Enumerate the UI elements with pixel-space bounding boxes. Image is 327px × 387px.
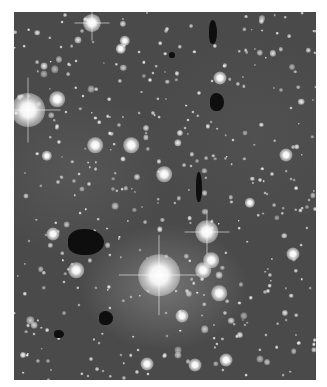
faint-star bbox=[252, 182, 254, 184]
faint-star bbox=[201, 326, 209, 334]
faint-star bbox=[80, 372, 83, 375]
faint-star bbox=[108, 253, 111, 256]
faint-star bbox=[289, 293, 294, 298]
faint-star bbox=[270, 172, 274, 176]
faint-star bbox=[134, 370, 138, 374]
faint-star bbox=[312, 343, 315, 346]
faint-star bbox=[121, 157, 126, 162]
faint-star bbox=[295, 186, 299, 190]
bright-star bbox=[245, 198, 255, 208]
faint-star bbox=[120, 256, 122, 258]
faint-star bbox=[243, 28, 246, 31]
faint-star bbox=[14, 30, 17, 34]
faint-star bbox=[101, 333, 103, 335]
faint-star bbox=[28, 240, 31, 243]
faint-star bbox=[294, 269, 298, 273]
faint-star bbox=[301, 207, 304, 210]
faint-star bbox=[301, 12, 304, 14]
faint-star bbox=[49, 112, 55, 118]
faint-star bbox=[189, 222, 191, 224]
faint-star bbox=[225, 300, 229, 304]
faint-star bbox=[107, 98, 111, 102]
faint-star bbox=[35, 218, 37, 220]
faint-star bbox=[281, 310, 287, 316]
faint-star bbox=[229, 195, 233, 199]
faint-star bbox=[60, 252, 64, 256]
bright-star bbox=[49, 91, 65, 107]
faint-star bbox=[230, 163, 233, 166]
bright-star bbox=[42, 151, 52, 161]
faint-star bbox=[183, 126, 186, 129]
faint-star bbox=[106, 114, 110, 118]
faint-star bbox=[216, 127, 219, 130]
diffraction-spike bbox=[92, 12, 93, 41]
faint-star bbox=[115, 63, 117, 65]
faint-star bbox=[92, 40, 95, 43]
faint-star bbox=[197, 91, 201, 95]
faint-star bbox=[122, 115, 124, 117]
faint-star bbox=[157, 198, 160, 201]
faint-star bbox=[289, 106, 292, 109]
faint-star bbox=[23, 193, 28, 198]
faint-star bbox=[120, 64, 126, 70]
faint-star bbox=[245, 51, 249, 55]
faint-star bbox=[190, 277, 194, 281]
faint-star bbox=[68, 63, 71, 66]
faint-star bbox=[165, 79, 169, 83]
faint-star bbox=[291, 348, 297, 354]
faint-star bbox=[311, 135, 314, 138]
faint-star bbox=[61, 156, 63, 158]
faint-star bbox=[78, 107, 81, 110]
bright-star bbox=[47, 228, 60, 241]
faint-star bbox=[196, 114, 200, 118]
faint-star bbox=[274, 215, 279, 220]
dark-globule bbox=[54, 330, 64, 338]
faint-star bbox=[59, 46, 62, 49]
faint-star bbox=[179, 330, 181, 332]
faint-star bbox=[176, 196, 180, 200]
faint-star bbox=[40, 71, 47, 78]
faint-star bbox=[105, 227, 108, 230]
faint-star bbox=[200, 314, 203, 317]
faint-star bbox=[265, 193, 268, 196]
faint-star bbox=[62, 311, 66, 315]
faint-star bbox=[25, 330, 29, 334]
faint-star bbox=[232, 139, 235, 142]
faint-star bbox=[174, 202, 177, 205]
faint-star bbox=[243, 131, 248, 136]
faint-star bbox=[16, 275, 18, 277]
faint-star bbox=[73, 194, 75, 196]
faint-star bbox=[258, 178, 262, 182]
faint-star bbox=[26, 354, 29, 357]
faint-star bbox=[235, 82, 239, 86]
faint-star bbox=[122, 362, 124, 364]
faint-star bbox=[273, 14, 276, 17]
faint-star bbox=[158, 116, 161, 119]
faint-star bbox=[95, 161, 97, 163]
faint-star bbox=[98, 342, 101, 345]
faint-star bbox=[138, 112, 141, 115]
faint-star bbox=[238, 227, 241, 230]
faint-star bbox=[63, 221, 70, 228]
faint-star bbox=[95, 368, 99, 372]
dark-globule bbox=[169, 52, 175, 58]
faint-star bbox=[109, 148, 111, 150]
faint-star bbox=[20, 352, 26, 358]
faint-star bbox=[250, 177, 254, 181]
faint-star bbox=[290, 178, 293, 181]
faint-star bbox=[193, 50, 196, 53]
bright-star bbox=[189, 359, 202, 372]
faint-star bbox=[41, 63, 48, 70]
faint-star bbox=[238, 301, 241, 304]
faint-star bbox=[63, 272, 67, 276]
faint-star bbox=[276, 32, 279, 35]
faint-star bbox=[242, 85, 245, 88]
faint-star bbox=[103, 62, 105, 64]
faint-star bbox=[285, 170, 288, 173]
faint-star bbox=[34, 30, 40, 36]
faint-star bbox=[305, 205, 309, 209]
faint-star bbox=[35, 60, 39, 64]
faint-star bbox=[120, 20, 126, 26]
faint-star bbox=[273, 87, 275, 89]
faint-star bbox=[72, 179, 76, 183]
